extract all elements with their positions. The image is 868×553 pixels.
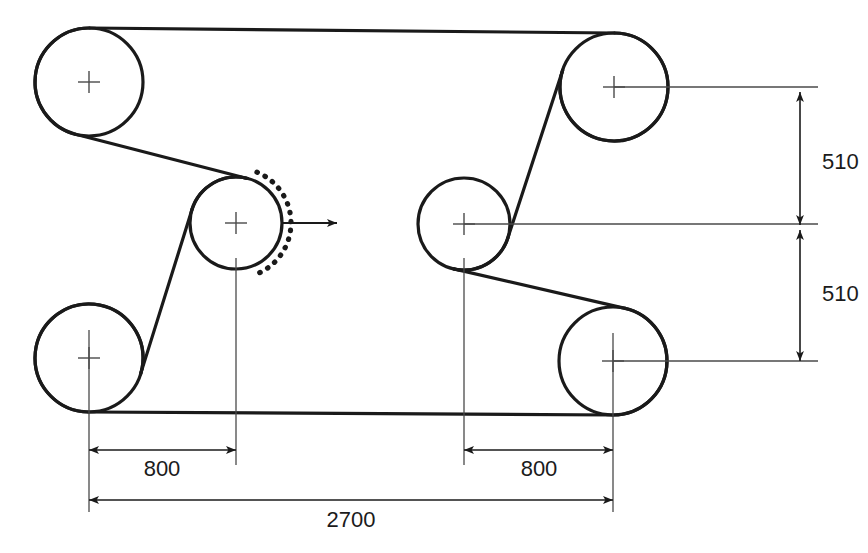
- pulley-top-left[interactable]: [35, 28, 143, 136]
- dimension-horizontal-right-800: 800: [464, 450, 613, 481]
- belt-span-topleft-to-midleft: [76, 134, 248, 178]
- belt-span-midleft-to-bottomleft: [141, 209, 193, 374]
- belt-path-group: [35, 28, 668, 415]
- belt-span-bottom: [89, 412, 613, 415]
- extension-line-group: [89, 87, 818, 512]
- pulley-middle-left[interactable]: [190, 177, 282, 269]
- dimension-label-horizontal-total-2700: 2700: [327, 507, 376, 532]
- dimension-horizontal-total-2700: 2700: [89, 500, 613, 532]
- dimension-label-vertical-upper: 510: [822, 149, 859, 174]
- belt-span-bottomright-to-midright: [454, 269, 625, 309]
- belt-span-midright-to-topright: [508, 70, 563, 238]
- belt-displacement-group: [257, 172, 337, 274]
- pulley-group: [35, 28, 668, 415]
- dimension-label-horizontal-right-800: 800: [521, 456, 558, 481]
- dimension-vertical-lower: 510: [800, 230, 859, 361]
- diagram-canvas: 5105108008002700: [0, 0, 868, 553]
- belt-span-top: [90, 28, 615, 33]
- dimension-label-vertical-lower: 510: [822, 281, 859, 306]
- belt-wrap-top-left: [35, 28, 90, 134]
- dimension-label-horizontal-left-800: 800: [144, 456, 181, 481]
- belt-drive-diagram: 5105108008002700: [0, 0, 868, 553]
- dimension-horizontal-left-800: 800: [89, 450, 236, 481]
- dimension-vertical-upper: 510: [800, 92, 859, 225]
- dimension-group: 5105108008002700: [89, 92, 859, 532]
